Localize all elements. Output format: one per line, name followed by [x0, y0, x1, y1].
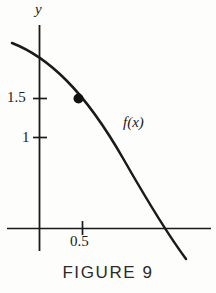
y-tick-label-1: 1 [22, 129, 30, 146]
x-tick-label-0point5: 0.5 [70, 233, 89, 250]
y-tick-label-1point5: 1.5 [7, 89, 26, 106]
marked-point [74, 94, 84, 104]
y-axis-label: y [35, 1, 42, 18]
function-label: f(x) [123, 114, 144, 131]
function-curve [12, 43, 186, 259]
figure-container: y f(x) 1.5 1 0.5 FIGURE 9 [0, 0, 216, 293]
figure-caption: FIGURE 9 [0, 263, 216, 283]
plot-canvas [0, 0, 216, 293]
